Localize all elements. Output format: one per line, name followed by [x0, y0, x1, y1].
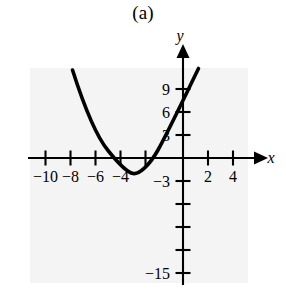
- x-tick-label--4: −4: [112, 168, 129, 185]
- y-axis-arrowhead: [177, 44, 190, 58]
- x-tick-labels: −10 −8 −6 −4 2 4: [33, 168, 237, 185]
- x-axis-label: x: [266, 149, 274, 166]
- x-tick-label--6: −6: [87, 168, 104, 185]
- x-tick-label-4: 4: [229, 168, 237, 185]
- y-tick-labels: 9 6 3 −3 −15: [145, 81, 170, 282]
- x-tick-label--8: −8: [62, 168, 79, 185]
- y-tick-label-6: 6: [162, 104, 170, 121]
- x-tick-label-2: 2: [204, 168, 212, 185]
- y-tick-label-3: 3: [162, 127, 170, 144]
- y-axis: [177, 44, 190, 285]
- figure-panel: (a): [0, 0, 286, 296]
- y-axis-label: y: [174, 27, 184, 45]
- y-tick-label-9: 9: [162, 81, 170, 98]
- graph-canvas: −10 −8 −6 −4 2 4 9 6 3 −3 −15 x y: [0, 0, 286, 296]
- y-tick-label--15: −15: [145, 265, 170, 282]
- y-tick-label--3: −3: [153, 173, 170, 190]
- x-axis-arrowhead: [254, 152, 268, 165]
- x-tick-label--10: −10: [33, 168, 58, 185]
